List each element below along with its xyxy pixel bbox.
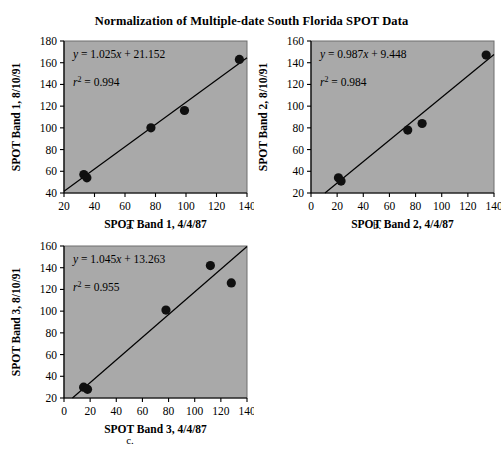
data-point[interactable] [161,305,170,314]
data-point[interactable] [83,385,92,394]
y-tick-label: 80 [46,327,58,339]
x-tick-label: 40 [111,405,123,417]
x-tick-label: 20 [58,200,70,212]
y-tick-label: 40 [46,187,58,199]
plot-area-background [64,41,247,193]
x-tick-label: 0 [61,405,67,417]
chart-panel-b: 20406080100120140160020406080100120140y … [253,33,501,233]
y-tick-label: 140 [40,262,58,274]
y-tick-label: 100 [40,305,58,317]
y-tick-label: 80 [293,122,305,134]
regression-equation-label: y = 0.987x + 9.448 [319,48,407,61]
chart-panel-c: 20406080100120140160020406080100120140y … [6,238,254,450]
data-point[interactable] [403,125,412,134]
x-tick-label: 60 [119,200,131,212]
panel-caption-b: b. [253,219,501,231]
x-tick-label: 20 [331,200,343,212]
x-tick-label: 20 [84,405,96,417]
data-point[interactable] [336,176,345,185]
plot-area-background [64,246,247,398]
x-tick-label: 100 [186,405,204,417]
x-tick-label: 140 [238,200,254,212]
x-tick-label: 40 [358,200,370,212]
y-tick-label: 40 [46,370,58,382]
y-axis-title: SPOT Band 1, 8/10/91 [10,63,22,172]
y-tick-label: 160 [287,35,305,47]
y-tick-label: 180 [40,35,58,47]
y-tick-label: 40 [293,165,305,177]
data-point[interactable] [180,106,189,115]
y-tick-label: 60 [46,349,58,361]
chart-panel-a: 40608010012014016018020406080100120140y … [6,33,254,233]
data-point[interactable] [82,173,91,182]
scatter-plot-b: 20406080100120140160020406080100120140y … [253,33,501,233]
regression-equation-label: y = 1.025x + 21.152 [72,48,165,61]
panel-caption-a: a. [6,219,254,231]
y-tick-label: 20 [46,392,58,404]
x-tick-label: 120 [208,200,226,212]
data-point[interactable] [235,55,244,64]
y-tick-label: 140 [40,78,58,90]
y-tick-label: 100 [287,100,305,112]
y-tick-label: 60 [46,165,58,177]
x-tick-label: 40 [89,200,101,212]
x-tick-label: 140 [238,405,254,417]
data-point[interactable] [146,123,155,132]
y-tick-label: 80 [46,144,58,156]
figure-title: Normalization of Multiple-date South Flo… [0,14,503,29]
y-axis-title: SPOT Band 3, 8/10/91 [10,268,22,377]
x-tick-label: 120 [212,405,230,417]
scatter-plot-c: 20406080100120140160020406080100120140y … [6,238,254,438]
x-tick-label: 0 [308,200,314,212]
x-tick-label: 140 [485,200,501,212]
regression-equation-label: y = 1.045x + 13.263 [72,253,165,266]
y-tick-label: 120 [40,100,58,112]
data-point[interactable] [418,119,427,128]
data-point[interactable] [482,51,491,60]
y-tick-label: 160 [40,57,58,69]
x-tick-label: 120 [459,200,477,212]
y-tick-label: 120 [40,283,58,295]
y-axis-title: SPOT Band 2, 8/10/91 [257,63,269,172]
y-tick-label: 60 [293,144,305,156]
x-tick-label: 80 [163,405,175,417]
x-tick-label: 60 [137,405,149,417]
y-tick-label: 160 [40,240,58,252]
data-point[interactable] [227,278,236,287]
scatter-plot-a: 40608010012014016018020406080100120140y … [6,33,254,233]
x-tick-label: 60 [384,200,396,212]
plot-area-background [311,41,494,193]
y-tick-label: 100 [40,122,58,134]
x-tick-label: 100 [177,200,195,212]
x-tick-label: 80 [150,200,162,212]
y-tick-label: 20 [293,187,305,199]
y-tick-label: 140 [287,57,305,69]
x-tick-label: 80 [410,200,422,212]
data-point[interactable] [206,261,215,270]
y-tick-label: 120 [287,78,305,90]
panel-caption-c: c. [6,434,254,446]
x-tick-label: 100 [433,200,451,212]
